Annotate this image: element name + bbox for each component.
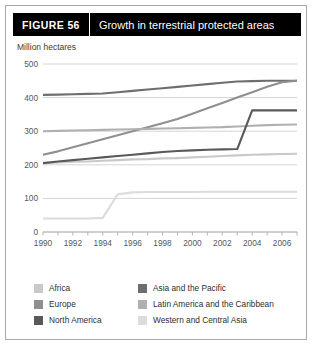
series-group: [43, 81, 297, 219]
legend-entry-africa: Africa: [34, 283, 138, 293]
legend-swatch-africa: [34, 284, 43, 293]
x-tick-label: 1996: [123, 238, 142, 248]
legend-label-north-america: North America: [49, 315, 102, 325]
axis-group: [43, 232, 297, 236]
figure-frame: FIGURE 56 Growth in terrestrial protecte…: [5, 5, 307, 340]
series-line-asia-and-the-pacific: [43, 81, 297, 95]
y-tick-label: 200: [24, 160, 38, 170]
chart-legend: AfricaAsia and the PacificEuropeLatin Am…: [34, 280, 284, 328]
x-tick-label: 1994: [94, 238, 113, 248]
legend-swatch-north-america: [34, 316, 43, 325]
x-tick-label: 1992: [64, 238, 83, 248]
y-tick-label: 400: [24, 93, 38, 103]
figure-header-bar: FIGURE 56 Growth in terrestrial protecte…: [13, 13, 301, 36]
legend-label-asia-and-the-pacific: Asia and the Pacific: [153, 283, 226, 293]
x-tick-label: 2004: [243, 238, 262, 248]
legend-label-africa: Africa: [49, 283, 70, 293]
x-tick-label: 2002: [213, 238, 232, 248]
y-tick-label: 0: [33, 227, 38, 237]
series-line-latin-america-and-the-caribbean: [43, 124, 297, 131]
figure-title: Growth in terrestrial protected areas: [90, 19, 274, 31]
legend-entry-western-and-central-asia: Western and Central Asia: [138, 315, 284, 325]
legend-label-western-and-central-asia: Western and Central Asia: [153, 315, 247, 325]
y-tick-label: 100: [24, 193, 38, 203]
legend-label-europe: Europe: [49, 299, 76, 309]
legend-entry-latin-america-and-the-caribbean: Latin America and the Caribbean: [138, 299, 284, 309]
x-tick-label: 1990: [34, 238, 53, 248]
series-line-europe: [43, 81, 297, 155]
x-tick-label: 1998: [153, 238, 172, 248]
legend-swatch-asia-and-the-pacific: [138, 284, 147, 293]
y-tick-label: 300: [24, 126, 38, 136]
legend-swatch-western-and-central-asia: [138, 316, 147, 325]
x-tick-label: 2006: [273, 238, 292, 248]
y-axis-unit-label: Million hectares: [17, 42, 76, 52]
legend-entry-north-america: North America: [34, 315, 138, 325]
series-line-western-and-central-asia: [43, 192, 297, 219]
legend-swatch-europe: [34, 300, 43, 309]
y-tick-labels: 0100200300400500: [24, 59, 38, 237]
legend-swatch-latin-america-and-the-caribbean: [138, 300, 147, 309]
figure-number-label: FIGURE 56: [13, 19, 89, 31]
x-tick-labels: 199019921994199619982000200220042006: [34, 238, 292, 248]
y-tick-label: 500: [24, 59, 38, 69]
legend-entry-asia-and-the-pacific: Asia and the Pacific: [138, 283, 284, 293]
line-chart-svg: 0100200300400500 19901992199419961998200…: [13, 58, 301, 258]
chart-plot-area: 0100200300400500 19901992199419961998200…: [13, 58, 301, 258]
x-tick-label: 2000: [183, 238, 202, 248]
legend-label-latin-america-and-the-caribbean: Latin America and the Caribbean: [153, 299, 274, 309]
legend-entry-europe: Europe: [34, 299, 138, 309]
